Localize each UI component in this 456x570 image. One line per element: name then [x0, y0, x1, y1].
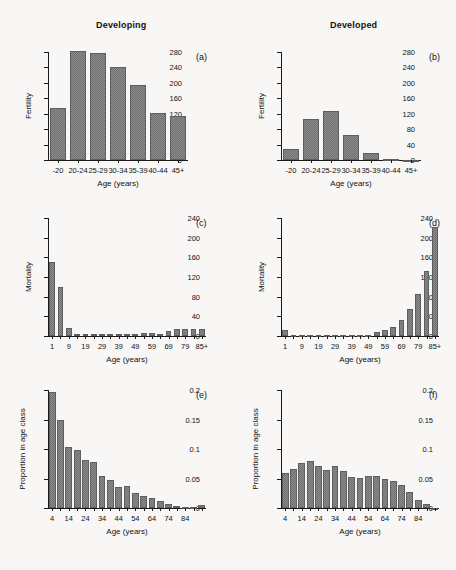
x-tick-d [377, 336, 378, 339]
y-tick-label-c: 160 [187, 253, 200, 262]
x-tick-c [177, 336, 178, 339]
y-tick-label-e: 0.15 [185, 415, 200, 424]
y-tick-label-f: 0.15 [418, 415, 433, 424]
y-tick-label-e: 0.05 [185, 474, 200, 483]
x-tick-label-f: 64 [381, 514, 389, 523]
y-axis-title-c: Mortality [24, 262, 33, 292]
y-tick-c [44, 336, 48, 337]
x-tick-a [158, 160, 159, 163]
x-tick-d [360, 336, 361, 339]
x-tick-d [285, 336, 286, 339]
plot-area-c: 04080120160200240191929394959697985+Age … [48, 218, 206, 336]
bar [107, 480, 114, 508]
bar [70, 51, 86, 160]
x-tick-f [302, 508, 303, 511]
x-axis-title-f: Age (years) [339, 527, 380, 536]
x-tick-label-e: 54 [131, 514, 139, 523]
plot-area-d: 04080120160200240191929394959697985+Age … [281, 218, 439, 336]
bar [74, 450, 81, 508]
x-axis-title-e: Age (years) [106, 527, 147, 536]
y-tick-f [277, 420, 281, 421]
bar [57, 420, 64, 509]
y-tick-label-a: 280 [169, 48, 182, 57]
x-tick-e [160, 508, 161, 511]
x-tick-label-b: 20-24 [301, 166, 320, 175]
x-tick-d [402, 336, 403, 339]
y-tick-f [277, 449, 281, 450]
x-tick-label-e: 44 [115, 514, 123, 523]
x-tick-label-d: 59 [381, 342, 389, 351]
y-tick-b [277, 67, 281, 68]
y-tick-a [44, 67, 48, 68]
bar [157, 501, 164, 508]
y-tick-d [277, 238, 281, 239]
y-tick-label-e: 0.1 [190, 445, 200, 454]
x-tick-c [102, 336, 103, 339]
x-tick-f [293, 508, 294, 511]
y-tick-label-f: 0.1 [423, 445, 433, 454]
x-tick-d [310, 336, 311, 339]
bar [199, 329, 205, 336]
y-tick-label-b: 40 [407, 140, 415, 149]
x-tick-c [85, 336, 86, 339]
x-tick-f [410, 508, 411, 511]
y-axis-title-a: Fertility [24, 93, 33, 119]
y-tick-c [44, 257, 48, 258]
y-tick-b [277, 98, 281, 99]
y-tick-a [44, 98, 48, 99]
plot-area-f: 00.050.10.150.241424344454647484Age (yea… [281, 390, 439, 508]
y-tick-a [44, 114, 48, 115]
x-tick-label-d: 69 [397, 342, 405, 351]
bar [415, 500, 422, 508]
panel-label-a: (a) [196, 52, 207, 62]
x-tick-label-f: 84 [414, 514, 422, 523]
y-axis-title-f: Proportion in age class [251, 408, 260, 489]
x-tick-e [144, 508, 145, 511]
x-tick-a [98, 160, 99, 163]
bar [307, 461, 314, 508]
x-tick-e [110, 508, 111, 511]
y-tick-label-c: 240 [187, 214, 200, 223]
panel-label-b: (b) [429, 52, 440, 62]
x-tick-label-f: 74 [397, 514, 405, 523]
x-tick-d [343, 336, 344, 339]
x-tick-a [118, 160, 119, 163]
x-tick-label-c: 49 [131, 342, 139, 351]
x-tick-c [202, 336, 203, 339]
bar [340, 471, 347, 508]
x-tick-label-b: 35-39 [361, 166, 380, 175]
bar [49, 392, 56, 508]
bar [332, 466, 339, 508]
x-axis-title-c: Age (years) [106, 355, 147, 364]
y-tick-e [44, 479, 48, 480]
x-tick-f [335, 508, 336, 511]
bar [82, 460, 89, 508]
bar [130, 85, 146, 160]
x-tick-a [178, 160, 179, 163]
x-tick-f [368, 508, 369, 511]
x-tick-label-a: -20 [53, 166, 64, 175]
x-tick-label-b: -20 [286, 166, 297, 175]
x-tick-label-a: 40-44 [148, 166, 167, 175]
column-title-developed: Developed [330, 20, 377, 30]
x-tick-label-a: 45+ [172, 166, 185, 175]
bar [132, 493, 139, 508]
x-tick-label-b: 40-44 [381, 166, 400, 175]
bar [343, 135, 359, 160]
plot-area-b: 04080120160200240280-2020-2425-2930-3435… [281, 52, 421, 160]
x-tick-label-d: 19 [314, 342, 322, 351]
bar [99, 476, 106, 508]
y-tick-label-a: 160 [169, 94, 182, 103]
y-tick-label-e: 0.2 [190, 386, 200, 395]
y-tick-label-c: 40 [192, 312, 200, 321]
x-tick-label-d: 39 [348, 342, 356, 351]
x-tick-f [427, 508, 428, 511]
bar [432, 227, 438, 336]
bar [50, 108, 66, 160]
x-tick-e [185, 508, 186, 511]
x-tick-b [351, 160, 352, 163]
x-tick-c [52, 336, 53, 339]
y-tick-d [277, 336, 281, 337]
x-tick-d [318, 336, 319, 339]
bar [140, 496, 147, 508]
